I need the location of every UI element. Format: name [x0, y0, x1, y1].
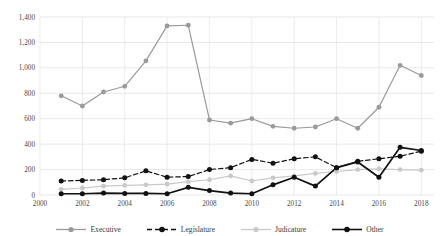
data-point: [398, 167, 403, 172]
data-point: [59, 179, 64, 184]
x-tick-label: 2016: [372, 200, 387, 208]
data-point: [143, 191, 148, 196]
data-point: [334, 165, 339, 170]
gridlines: [40, 17, 434, 195]
data-point: [419, 168, 424, 173]
data-point: [144, 58, 149, 63]
chart-legend: Executive Legislature Judicature Other: [0, 225, 440, 234]
data-point: [313, 171, 318, 176]
y-tick-label: 1,000: [19, 64, 36, 72]
data-point: [355, 167, 360, 172]
data-point: [122, 84, 127, 89]
y-tick-label: 600: [24, 115, 35, 123]
data-point: [228, 174, 233, 179]
data-point: [186, 174, 191, 179]
data-point: [398, 63, 403, 68]
x-tick-label: 2002: [75, 200, 90, 208]
data-point: [334, 116, 339, 121]
data-point: [355, 159, 360, 164]
data-point: [249, 191, 254, 196]
legend-swatch-judicature: [241, 225, 271, 234]
line-chart: 02004006008001,0001,2001,400 20002002200…: [0, 0, 440, 236]
x-tick-label: 2000: [33, 200, 48, 208]
data-point: [101, 191, 106, 196]
legend-label-executive: Executive: [90, 225, 120, 234]
series-line-executive: [61, 25, 421, 128]
data-point: [271, 161, 276, 166]
data-point: [271, 175, 276, 180]
data-point: [376, 156, 381, 161]
data-point: [122, 183, 127, 188]
data-point: [313, 154, 318, 159]
data-point: [292, 175, 297, 180]
data-point: [271, 124, 276, 129]
data-point: [144, 182, 149, 187]
data-point: [165, 191, 170, 196]
x-tick-label: 2012: [287, 200, 302, 208]
data-point: [165, 24, 170, 29]
data-point: [376, 175, 381, 180]
legend-item-other[interactable]: Other: [332, 225, 383, 234]
data-point: [165, 175, 170, 180]
data-point: [249, 157, 254, 162]
data-point: [355, 126, 360, 131]
data-point: [186, 179, 191, 184]
legend-swatch-other: [332, 225, 362, 234]
data-point: [377, 105, 382, 110]
data-point: [59, 187, 64, 192]
data-point: [228, 165, 233, 170]
data-point: [143, 168, 148, 173]
y-tick-label: 400: [24, 141, 35, 149]
chart-svg: 02004006008001,0001,2001,400 20002002200…: [0, 0, 440, 236]
data-point: [80, 186, 85, 191]
data-point: [186, 23, 191, 28]
series-line-other: [61, 147, 421, 193]
x-tick-label: 2010: [245, 200, 260, 208]
data-point: [207, 167, 212, 172]
y-axis-ticks: 02004006008001,0001,2001,400: [19, 14, 36, 200]
plot-area: 02004006008001,0001,2001,400 20002002200…: [0, 0, 440, 236]
data-point: [80, 104, 85, 109]
data-point: [59, 191, 64, 196]
data-point: [122, 191, 127, 196]
data-point: [122, 175, 127, 180]
legend-item-judicature[interactable]: Judicature: [241, 225, 306, 234]
data-point: [377, 167, 382, 172]
data-point: [59, 93, 64, 98]
data-point: [101, 90, 106, 95]
legend-item-executive[interactable]: Executive: [56, 225, 120, 234]
data-point: [398, 145, 403, 150]
data-point: [313, 184, 318, 189]
data-point: [292, 126, 297, 131]
data-point: [101, 184, 106, 189]
legend-swatch-legislature: [147, 225, 177, 234]
data-point: [419, 73, 424, 78]
data-point: [165, 182, 170, 187]
x-tick-label: 2014: [329, 200, 344, 208]
legend-label-other: Other: [366, 225, 383, 234]
data-point: [249, 116, 254, 121]
data-point: [186, 185, 191, 190]
data-point: [292, 156, 297, 161]
y-tick-label: 200: [24, 166, 35, 174]
series-lines: [61, 25, 421, 193]
data-point: [228, 121, 233, 126]
x-tick-label: 2018: [414, 200, 429, 208]
x-axis-ticks: 2000200220042006200820102012201420162018: [33, 200, 429, 208]
series-line-legislature: [61, 151, 421, 181]
legend-label-legislature: Legislature: [181, 225, 215, 234]
data-point: [207, 188, 212, 193]
x-tick-label: 2008: [202, 200, 217, 208]
data-point: [313, 125, 318, 130]
data-point: [228, 191, 233, 196]
data-point: [207, 118, 212, 123]
data-point: [80, 191, 85, 196]
data-point: [101, 177, 106, 182]
legend-item-legislature[interactable]: Legislature: [147, 225, 215, 234]
data-point: [271, 182, 276, 187]
y-tick-label: 1,200: [19, 39, 36, 47]
x-tick-label: 2006: [160, 200, 175, 208]
y-tick-label: 800: [24, 90, 35, 98]
y-tick-label: 0: [31, 192, 35, 200]
data-point: [249, 179, 254, 184]
